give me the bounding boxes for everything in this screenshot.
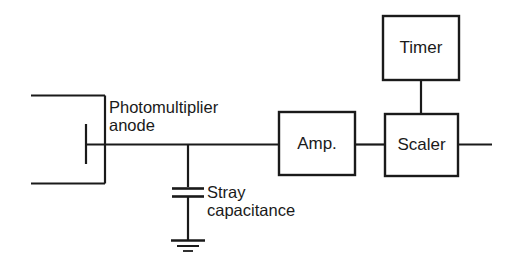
pmt-anode-label-line1: Photomultiplier bbox=[109, 98, 219, 116]
stray-capacitance-label-line2: capacitance bbox=[207, 201, 295, 219]
scaler-label: Scaler bbox=[397, 135, 446, 154]
circuit-diagram: Amp. Scaler Timer Photomultiplier anode … bbox=[0, 0, 514, 270]
timer-block: Timer bbox=[383, 16, 459, 80]
scaler-block: Scaler bbox=[385, 114, 458, 176]
stray-capacitance-annotation: Stray capacitance bbox=[207, 183, 295, 219]
stray-capacitance-branch bbox=[171, 145, 205, 252]
pmt-anode-annotation: Photomultiplier anode bbox=[109, 98, 219, 134]
amp-label: Amp. bbox=[297, 134, 337, 153]
timer-label: Timer bbox=[400, 38, 443, 57]
photomultiplier-tube-outline bbox=[31, 96, 105, 184]
ground-icon bbox=[171, 241, 205, 252]
pmt-anode-label-line2: anode bbox=[109, 116, 155, 134]
amp-block: Amp. bbox=[279, 112, 355, 175]
stray-capacitance-label-line1: Stray bbox=[207, 183, 246, 201]
